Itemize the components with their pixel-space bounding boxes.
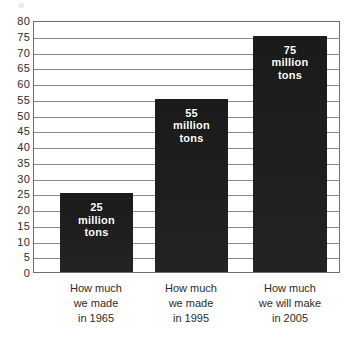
bar-unit-line-1: million xyxy=(253,56,327,69)
y-tick-label: 80 xyxy=(4,16,30,27)
bar-unit-line-2: tons xyxy=(155,132,228,145)
y-axis: 80 75 70 65 60 55 50 45 40 35 30 25 20 1… xyxy=(0,21,30,273)
y-tick-label: 40 xyxy=(4,142,30,153)
x-label-line-1: How much xyxy=(41,281,151,296)
x-label-line-3: in 1965 xyxy=(41,311,151,326)
x-label-line-3: in 1995 xyxy=(136,311,246,326)
x-category-label-2005: How much we will make in 2005 xyxy=(234,281,346,326)
plot-area: 25 million tons 55 million tons 75 milli… xyxy=(33,21,340,273)
x-label-line-1: How much xyxy=(136,281,246,296)
y-tick-label: 35 xyxy=(4,158,30,169)
x-category-label-1965: How much we made in 1965 xyxy=(41,281,151,326)
bar-unit-line-1: million xyxy=(155,119,228,132)
y-tick-label: 30 xyxy=(4,174,30,185)
y-tick-label: 65 xyxy=(4,63,30,74)
y-tick-label: 45 xyxy=(4,126,30,137)
y-tick-label: 5 xyxy=(4,252,30,263)
bar-2005[interactable]: 75 million tons xyxy=(253,36,327,272)
x-label-line-2: we made xyxy=(41,296,151,311)
bar-value-label-1995: 55 million tons xyxy=(155,107,228,145)
x-label-line-3: in 2005 xyxy=(234,311,346,326)
bar-value-label-2005: 75 million tons xyxy=(253,44,327,82)
y-tick-label: 15 xyxy=(4,221,30,232)
bar-value-label-1965: 25 million tons xyxy=(60,201,133,239)
x-label-line-2: we made xyxy=(136,296,246,311)
bar-value: 75 xyxy=(253,44,327,57)
x-label-line-1: How much xyxy=(234,281,346,296)
bar-unit-line-1: million xyxy=(60,214,133,227)
y-tick-label: 10 xyxy=(4,237,30,248)
bar-unit-line-2: tons xyxy=(253,69,327,82)
bar-1965[interactable]: 25 million tons xyxy=(60,193,133,272)
y-tick-label: 70 xyxy=(4,48,30,59)
x-axis: How much we made in 1965 How much we mad… xyxy=(33,281,340,333)
bar-value: 25 xyxy=(60,201,133,214)
y-tick-label: 25 xyxy=(4,189,30,200)
y-tick-label: 55 xyxy=(4,95,30,106)
y-tick-label: 20 xyxy=(4,205,30,216)
scan-artifact xyxy=(18,3,24,8)
y-tick-label: 75 xyxy=(4,32,30,43)
y-tick-label: 50 xyxy=(4,111,30,122)
bar-value: 55 xyxy=(155,107,228,120)
x-category-label-1995: How much we made in 1995 xyxy=(136,281,246,326)
bar-1995[interactable]: 55 million tons xyxy=(155,99,228,272)
x-label-line-2: we will make xyxy=(234,296,346,311)
bar-chart: 80 75 70 65 60 55 50 45 40 35 30 25 20 1… xyxy=(0,0,351,339)
y-tick-label: 0 xyxy=(4,268,30,279)
bar-unit-line-2: tons xyxy=(60,226,133,239)
y-tick-label: 60 xyxy=(4,79,30,90)
